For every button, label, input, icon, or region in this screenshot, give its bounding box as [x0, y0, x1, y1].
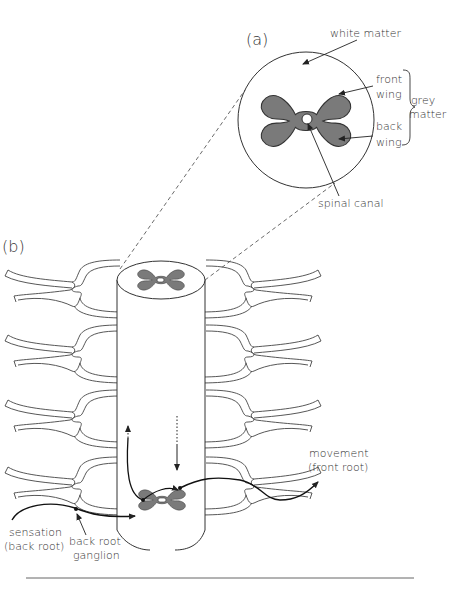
ganglion-arrow: [77, 514, 86, 535]
projection-line-left: [120, 90, 245, 269]
nerve-left-1: [5, 260, 128, 318]
white-matter-label: white matter: [330, 27, 401, 40]
spinal-column: [5, 260, 321, 550]
front-wing-label-2: wing: [376, 88, 402, 101]
ganglion-label-2: ganglion: [73, 549, 120, 562]
spinal-cord-diagram: (a) (b) white matter front wing back win…: [0, 0, 462, 594]
front-wing-label-1: front: [376, 73, 402, 86]
grey-matter-label-2: matter: [409, 108, 447, 121]
back-wing-label-1: back: [376, 120, 403, 133]
nerve-right-4: [198, 457, 321, 515]
spinal-canal-hole: [302, 114, 312, 124]
spinal-canal-label: spinal canal: [318, 197, 384, 210]
ganglion-label-1: back root: [69, 535, 121, 548]
nerve-right-3: [198, 390, 321, 448]
nerve-left-3: [5, 390, 128, 448]
movement-label-2: (front root): [308, 461, 368, 474]
nerve-right-2: [198, 325, 321, 383]
nerve-left-2: [5, 325, 128, 383]
back-wing-label-2: wing: [376, 136, 402, 149]
projection-line-right: [205, 183, 335, 280]
sensation-label-2: (back root): [4, 540, 64, 553]
sensation-label-1: sensation: [9, 526, 62, 539]
grey-matter-label-1: grey: [411, 94, 435, 107]
cross-section: white matter front wing back wing grey m…: [238, 27, 447, 210]
movement-label-1: movement: [309, 447, 369, 460]
panel-a-label: (a): [246, 30, 268, 49]
panel-b-label: (b): [2, 237, 25, 256]
nerve-right-1: [198, 260, 321, 318]
